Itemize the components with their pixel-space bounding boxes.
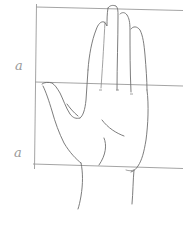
thumb-crease bbox=[67, 104, 78, 116]
wrist-crease-right bbox=[126, 170, 134, 171]
wrist-right-line bbox=[132, 170, 134, 204]
bottom-guide-line bbox=[33, 164, 183, 169]
top-guide-line bbox=[36, 7, 183, 11]
index-finger-inner-line bbox=[101, 22, 105, 88]
sketch-canvas bbox=[0, 0, 195, 229]
palm-crease-upper bbox=[102, 120, 124, 136]
proportion-label-lower: a bbox=[14, 146, 22, 159]
palm-right-edge bbox=[131, 90, 148, 172]
index-finger bbox=[88, 8, 108, 70]
wrist-left-line bbox=[78, 163, 83, 209]
palm-crease-thenar bbox=[99, 138, 106, 165]
hand-outline bbox=[42, 5, 148, 209]
proportion-label-upper: a bbox=[15, 59, 23, 72]
middle-finger bbox=[108, 5, 118, 90]
thumb-index-webbing bbox=[80, 70, 88, 118]
ring-finger bbox=[120, 13, 131, 92]
pinky-finger bbox=[131, 27, 147, 90]
middle-guide-line bbox=[35, 82, 183, 86]
vertical-guide-line bbox=[35, 4, 37, 169]
